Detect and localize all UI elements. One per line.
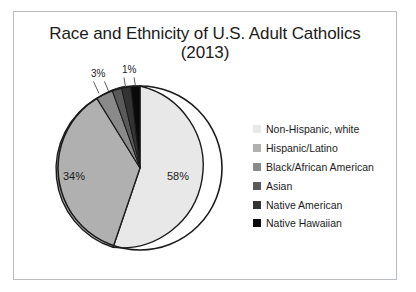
legend-label: Hispanic/Latino [266, 142, 338, 154]
legend-swatch-icon [253, 125, 261, 133]
chart-page: Race and Ethnicity of U.S. Adult Catholi… [0, 0, 416, 292]
legend-swatch-icon [253, 219, 261, 227]
legend-label: Asian [266, 180, 292, 192]
legend-swatch-icon [253, 201, 261, 209]
legend-swatch-icon [253, 163, 261, 171]
leader-line-asian [105, 82, 109, 92]
legend-item-black-african-american[interactable]: Black/African American [253, 158, 393, 177]
legend-label: Non-Hispanic, white [266, 123, 359, 135]
legend-swatch-icon [253, 144, 261, 152]
legend-item-native-hawaiian[interactable]: Native Hawaiian [253, 214, 393, 233]
pie-value-label-hispanic-latino: 34% [63, 170, 85, 182]
pie-slices [56, 86, 203, 248]
chart-legend: Non-Hispanic, white Hispanic/Latino Blac… [253, 120, 393, 233]
pie-value-label-black-african-american: 3% [91, 68, 105, 79]
legend-swatch-icon [253, 182, 261, 190]
legend-item-asian[interactable]: Asian [253, 176, 393, 195]
leader-line-native-hawaiian [134, 78, 136, 87]
pie-value-label-asian: 1% [122, 64, 136, 75]
pie-value-label-non-hispanic-white: 58% [167, 170, 189, 182]
leader-line-native-american [124, 78, 126, 88]
leader-line-black [94, 82, 100, 94]
legend-label: Native Hawaiian [266, 217, 342, 229]
pie-chart-svg [50, 60, 240, 255]
legend-item-hispanic-latino[interactable]: Hispanic/Latino [253, 139, 393, 158]
legend-item-native-american[interactable]: Native American [253, 195, 393, 214]
legend-label: Black/African American [266, 161, 374, 173]
legend-item-non-hispanic-white[interactable]: Non-Hispanic, white [253, 120, 393, 139]
legend-label: Native American [266, 199, 342, 211]
